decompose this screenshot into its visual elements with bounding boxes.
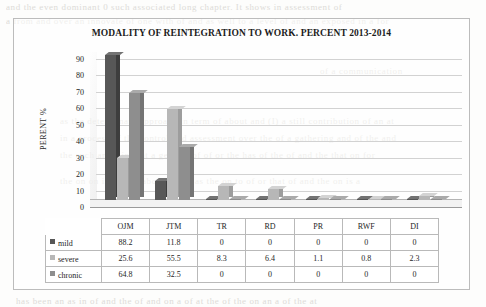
table-cell-chronic-di: 0	[390, 267, 438, 283]
bar-side	[140, 90, 144, 197]
bar-severe-tr	[218, 186, 229, 200]
bar-face	[117, 158, 128, 200]
bar-chronic-rd	[280, 199, 291, 201]
legend-swatch-chronic-icon	[50, 271, 55, 276]
table-cell-severe-rd: 6.4	[246, 251, 294, 267]
plot-area	[90, 52, 450, 207]
bar-mild-jtm	[155, 181, 166, 200]
bar-top	[167, 106, 186, 109]
table-header-row: OJMJTMTRRDPRRWFDI	[46, 219, 439, 235]
legend-entry-severe: severe	[46, 251, 102, 267]
plot-floor	[90, 199, 462, 207]
chart-figure: MODALITY OF REINTEGRATION TO WORK. PERCE…	[13, 18, 470, 290]
bar-face	[167, 109, 178, 200]
bar-top	[330, 196, 349, 199]
table-cell-chronic-pr: 0	[294, 267, 342, 283]
y-axis-tick-label: 0	[58, 203, 84, 212]
y-axis-tick-label: 30	[58, 153, 84, 162]
data-table: OJMJTMTRRDPRRWFDI mild88.211.800000sever…	[45, 218, 439, 283]
bar-top	[431, 196, 450, 199]
legend-entry-chronic: chronic	[46, 267, 102, 283]
bar-top	[280, 196, 299, 199]
bar-top	[230, 196, 249, 199]
bar-group-rwf	[349, 52, 399, 200]
ghost-line: and the even dominant 0 such associated …	[6, 2, 342, 12]
table-header-jtm: JTM	[150, 219, 198, 235]
table-cell-mild-jtm: 11.8	[150, 235, 198, 251]
bar-face	[155, 181, 166, 200]
bar-top	[381, 196, 400, 199]
bar-face	[318, 198, 329, 200]
bar-chronic-jtm	[179, 147, 190, 200]
table-row: severe25.655.58.36.41.10.82.3	[46, 251, 439, 267]
bar-severe-rd	[268, 189, 279, 200]
table-header-ojm: OJM	[102, 219, 150, 235]
bar-face	[419, 196, 430, 200]
bar-chronic-ojm	[129, 93, 140, 200]
chart-title: MODALITY OF REINTEGRATION TO WORK. PERCE…	[14, 28, 469, 38]
table-cell-severe-tr: 8.3	[198, 251, 246, 267]
legend-swatch-severe-icon	[50, 255, 55, 260]
bar-severe-rwf	[369, 199, 380, 201]
bar-group-rd	[248, 52, 298, 200]
bar-top	[179, 144, 198, 147]
bar-chronic-rwf	[381, 199, 392, 201]
table-cell-chronic-rd: 0	[246, 267, 294, 283]
table-header-tr: TR	[198, 219, 246, 235]
bar-mild-ojm	[105, 55, 116, 200]
table-cell-mild-rd: 0	[246, 235, 294, 251]
bar-face	[218, 186, 229, 200]
table-header-rwf: RWF	[342, 219, 390, 235]
legend-label: mild	[58, 238, 73, 247]
legend-entry-mild: mild	[46, 235, 102, 251]
legend-swatch-mild-icon	[50, 239, 55, 244]
table-cell-mild-ojm: 88.2	[102, 235, 150, 251]
y-axis-tick-label: 10	[58, 186, 84, 195]
bar-chronic-di	[431, 199, 442, 201]
table-cell-chronic-rwf: 0	[342, 267, 390, 283]
bar-groups	[97, 52, 450, 200]
plot-wrapper: PERENT % 9080706050403020100	[14, 52, 471, 219]
bar-mild-di	[407, 199, 418, 201]
table-cell-severe-ojm: 25.6	[102, 251, 150, 267]
table-cell-mild-pr: 0	[294, 235, 342, 251]
bar-face	[268, 189, 279, 200]
bar-severe-di	[419, 196, 430, 200]
legend-label: severe	[58, 254, 78, 263]
table-cell-mild-tr: 0	[198, 235, 246, 251]
table-header-di: DI	[390, 219, 438, 235]
bar-face	[179, 147, 190, 200]
table-corner-cell	[46, 219, 102, 235]
y-axis-tick-label: 80	[58, 71, 84, 80]
bar-group-pr	[299, 52, 349, 200]
table-cell-severe-di: 2.3	[390, 251, 438, 267]
table-cell-severe-pr: 1.1	[294, 251, 342, 267]
bar-mild-tr	[206, 199, 217, 201]
bar-side	[190, 144, 194, 197]
y-axis-tick-label: 40	[58, 137, 84, 146]
table-cell-chronic-jtm: 32.5	[150, 267, 198, 283]
table-cell-mild-rwf: 0	[342, 235, 390, 251]
table-cell-chronic-tr: 0	[198, 267, 246, 283]
y-axis-tick-labels: 9080706050403020100	[58, 52, 84, 207]
table-cell-chronic-ojm: 64.8	[102, 267, 150, 283]
bar-top	[105, 52, 124, 55]
bar-group-tr	[198, 52, 248, 200]
gridline	[90, 207, 462, 208]
y-axis-tick-label: 70	[58, 87, 84, 96]
y-axis-tick-label: 60	[58, 104, 84, 113]
bar-severe-jtm	[167, 109, 178, 200]
legend-label: chronic	[58, 270, 82, 279]
table-header-pr: PR	[294, 219, 342, 235]
bar-severe-pr	[318, 198, 329, 200]
table-header-rd: RD	[246, 219, 294, 235]
bar-group-ojm	[97, 52, 147, 200]
bar-face	[129, 93, 140, 200]
bar-mild-pr	[306, 199, 317, 201]
bar-chronic-pr	[330, 199, 341, 201]
y-axis-tick-label: 50	[58, 120, 84, 129]
bar-face	[105, 55, 116, 200]
bar-severe-ojm	[117, 158, 128, 200]
table-cell-mild-di: 0	[390, 235, 438, 251]
bar-group-jtm	[147, 52, 197, 200]
